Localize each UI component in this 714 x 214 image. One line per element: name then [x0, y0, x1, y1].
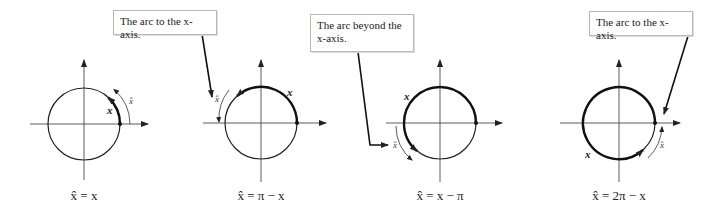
panel-2-unit-circle — [202, 34, 326, 182]
callout-text: The arc beyond the x-axis. — [317, 19, 402, 44]
panel-3-caption: x̂ = x − π — [390, 188, 490, 204]
panel-3-arc-label: x — [404, 90, 410, 102]
panel-4-ref-label: x̂ — [660, 140, 664, 150]
panel-1-arc-label: x — [107, 104, 113, 116]
panel-4-unit-circle — [560, 36, 688, 182]
panel-2-caption: x̂ = π − x — [211, 188, 311, 204]
panel-1-caption: x̂ = x — [34, 188, 134, 204]
panel-1-ref-label: x̂ — [129, 96, 133, 106]
callout-box-3: The arc to the x-axis. — [589, 11, 693, 36]
panel-3-unit-circle — [358, 52, 502, 182]
callout-box-1: The arc to the x-axis. — [113, 10, 217, 35]
panel-2-ref-label: x̂ — [215, 94, 219, 104]
panel-4-caption: x̂ = 2π − x — [569, 188, 669, 204]
panel-3-ref-label: x̂ — [393, 140, 397, 150]
panel-1-unit-circle — [30, 60, 148, 180]
callout-box-2: The arc beyond the x-axis. — [310, 14, 414, 52]
panel-4-arc-label: x — [585, 148, 591, 160]
panel-2-arc-label: x — [287, 86, 293, 98]
